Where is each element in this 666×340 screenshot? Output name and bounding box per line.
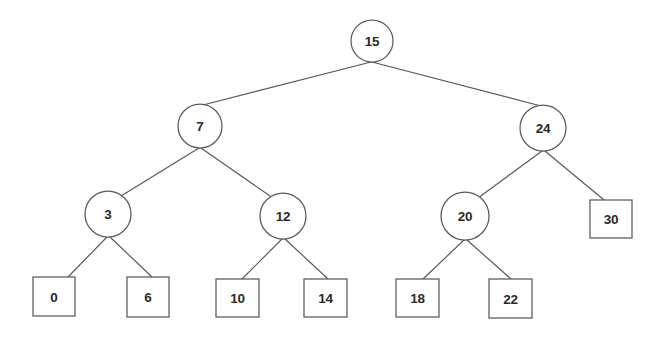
edge-20-22 <box>467 240 511 279</box>
node-label-3: 3 <box>104 207 112 222</box>
tree-leaf-30[interactable]: 30 <box>590 200 632 238</box>
node-label-7: 7 <box>196 119 203 134</box>
leaf-label-6: 6 <box>144 290 152 305</box>
tree-leaf-6[interactable]: 6 <box>127 277 169 317</box>
tree-leaf-0[interactable]: 0 <box>33 277 75 316</box>
tree-diagram-canvas: 15 7 24 3 12 20 <box>0 0 666 340</box>
edge-15-7 <box>203 62 371 105</box>
edge-group <box>68 62 604 279</box>
edge-24-30 <box>545 151 604 200</box>
leaf-label-10: 10 <box>230 291 245 306</box>
node-label-24: 24 <box>536 121 551 136</box>
tree-leaf-14[interactable]: 14 <box>304 279 347 317</box>
node-label-root: 15 <box>365 34 380 49</box>
leaf-label-0: 0 <box>50 290 57 305</box>
edge-20-18 <box>423 240 464 279</box>
node-label-20: 20 <box>458 209 473 224</box>
edge-7-3 <box>121 148 199 196</box>
edge-15-24 <box>372 62 541 106</box>
tree-node-24[interactable]: 24 <box>520 105 566 151</box>
edge-3-0 <box>68 237 107 277</box>
edge-3-6 <box>110 237 152 277</box>
edge-12-10 <box>242 239 282 279</box>
tree-node-root[interactable]: 15 <box>351 20 393 62</box>
leaf-label-18: 18 <box>410 291 425 306</box>
node-label-12: 12 <box>276 209 291 224</box>
edge-7-12 <box>201 148 270 196</box>
edge-24-20 <box>478 151 542 198</box>
binary-tree-svg: 15 7 24 3 12 20 <box>0 0 666 340</box>
tree-node-20[interactable]: 20 <box>441 192 489 240</box>
leaf-label-14: 14 <box>318 291 333 306</box>
edge-12-14 <box>285 239 328 279</box>
tree-leaf-18[interactable]: 18 <box>396 279 439 317</box>
leaf-label-30: 30 <box>604 212 619 227</box>
leaf-label-22: 22 <box>503 292 518 307</box>
tree-node-7[interactable]: 7 <box>178 104 222 148</box>
tree-leaf-10[interactable]: 10 <box>216 279 259 317</box>
tree-node-3[interactable]: 3 <box>85 191 131 237</box>
tree-node-12[interactable]: 12 <box>260 193 306 239</box>
tree-leaf-22[interactable]: 22 <box>489 279 532 318</box>
internal-node-group: 15 7 24 3 12 20 <box>85 20 566 240</box>
